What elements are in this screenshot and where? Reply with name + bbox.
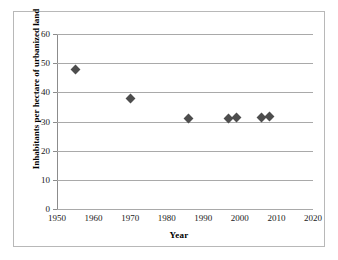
chart-figure: Inhabitants per hectare of urbanized lan… (13, 11, 325, 247)
y-tick-mark (53, 122, 57, 123)
gridline-y (57, 151, 313, 152)
y-tick-label: 20 (41, 146, 50, 155)
x-tick-label: 1980 (158, 214, 176, 223)
gridline-y (57, 122, 313, 123)
x-tick-label: 1990 (194, 214, 212, 223)
gridline-y (57, 209, 313, 210)
gridline-y (57, 63, 313, 64)
x-tick-label: 2020 (304, 214, 322, 223)
y-tick-mark (53, 92, 57, 93)
y-tick-mark (53, 209, 57, 210)
y-tick-label: 10 (41, 175, 50, 184)
y-tick-mark (53, 34, 57, 35)
plot-area: 0102030405060195019601970198019902000201… (57, 34, 313, 209)
y-tick-label: 60 (41, 30, 50, 39)
y-tick-mark (53, 151, 57, 152)
x-tick-label: 1970 (121, 214, 139, 223)
x-tick-label: 2010 (267, 214, 285, 223)
y-tick-label: 50 (41, 59, 50, 68)
data-point (125, 93, 135, 103)
gridline-y (57, 34, 313, 35)
y-tick-mark (53, 63, 57, 64)
x-axis-title: Year (70, 230, 288, 240)
y-tick-mark (53, 180, 57, 181)
x-tick-label: 2000 (231, 214, 249, 223)
gridline-y (57, 92, 313, 93)
x-tick-label: 1960 (85, 214, 103, 223)
data-point (264, 112, 274, 122)
y-axis-title: Inhabitants per hectare of urbanized lan… (31, 1, 41, 177)
y-tick-label: 30 (41, 117, 50, 126)
gridline-y (57, 180, 313, 181)
y-tick-label: 40 (41, 88, 50, 97)
data-point (70, 64, 80, 74)
x-tick-label: 1950 (48, 214, 66, 223)
